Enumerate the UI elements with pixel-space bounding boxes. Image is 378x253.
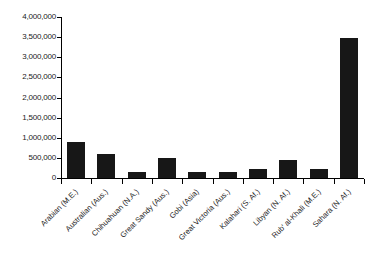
x-axis-labels: Arabian (M.E.)Australian (Aus.)Chihuahua… [0, 0, 378, 253]
bar-chart: 0500,0001,000,0001,500,0002,000,0002,500… [0, 0, 378, 253]
